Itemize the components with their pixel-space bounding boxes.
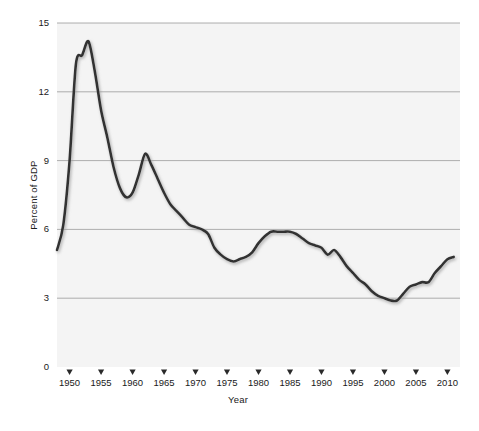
x-axis-tick-label: 2010 [430, 378, 464, 388]
y-axis-tick-label: 6 [27, 224, 49, 234]
x-axis-tick-mark [66, 370, 72, 376]
x-axis-tick-mark [161, 370, 167, 376]
x-axis-tick-label: 1965 [147, 378, 181, 388]
x-axis-tick-label: 1960 [116, 378, 150, 388]
x-axis-tick-mark [318, 370, 324, 376]
y-axis-tick-label: 9 [27, 156, 49, 166]
x-axis-tick-mark [350, 370, 356, 376]
chart-plot-area [0, 0, 479, 431]
x-axis-title: Year [208, 394, 268, 405]
x-axis-tick-label: 1975 [210, 378, 244, 388]
x-axis-tick-label: 2005 [399, 378, 433, 388]
y-axis-title: Percent of GDP [28, 135, 39, 255]
x-axis-tick-label: 1995 [336, 378, 370, 388]
x-axis-tick-mark [129, 370, 135, 376]
chart-figure: Percent of GDP Year 03691215 19501955196… [0, 0, 479, 431]
x-axis-tick-label: 1980 [242, 378, 276, 388]
x-axis-tick-mark [444, 370, 450, 376]
x-axis-tick-mark [255, 370, 261, 376]
x-axis-tick-label: 2000 [367, 378, 401, 388]
x-axis-tick-mark [381, 370, 387, 376]
y-axis-tick-label: 15 [27, 18, 49, 28]
plot-background [57, 23, 460, 367]
x-axis-tick-label: 1970 [179, 378, 213, 388]
y-axis-tick-label: 0 [27, 362, 49, 372]
x-axis-tick-mark [413, 370, 419, 376]
y-axis-tick-label: 3 [27, 293, 49, 303]
x-axis-tick-label: 1955 [84, 378, 118, 388]
x-axis-tick-label: 1950 [53, 378, 87, 388]
x-axis-tick-label: 1985 [273, 378, 307, 388]
x-axis-tick-mark [192, 370, 198, 376]
x-axis-tick-mark [287, 370, 293, 376]
x-axis-tick-marks [66, 370, 450, 376]
x-axis-tick-mark [224, 370, 230, 376]
x-axis-tick-mark [98, 370, 104, 376]
x-axis-tick-label: 1990 [304, 378, 338, 388]
y-axis-tick-label: 12 [27, 87, 49, 97]
